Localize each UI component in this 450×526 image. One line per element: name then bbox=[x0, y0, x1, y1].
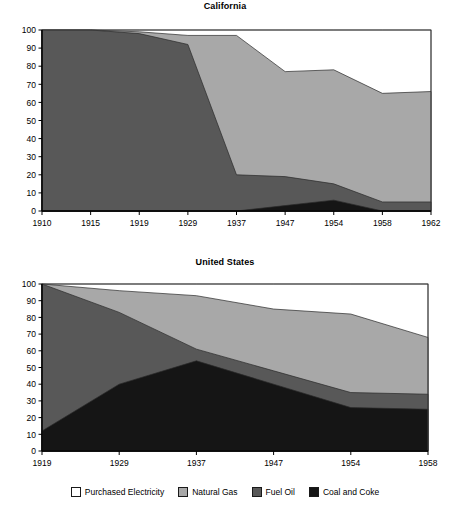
y-tick-label: 50 bbox=[27, 363, 37, 373]
y-tick-label: 10 bbox=[27, 188, 37, 198]
x-tick-label: 1919 bbox=[33, 458, 52, 468]
x-tick-label: 1937 bbox=[187, 458, 206, 468]
chart-california: California 01020304050607080901001910191… bbox=[0, 0, 450, 248]
y-tick-label: 40 bbox=[27, 134, 37, 144]
x-tick-label: 1947 bbox=[276, 218, 295, 228]
x-tick-label: 1958 bbox=[419, 458, 438, 468]
y-tick-label: 50 bbox=[27, 116, 37, 126]
x-tick-label: 1954 bbox=[324, 218, 343, 228]
y-tick-label: 90 bbox=[27, 43, 37, 53]
y-tick-label: 30 bbox=[27, 152, 37, 162]
y-tick-label: 20 bbox=[27, 170, 37, 180]
y-tick-label: 0 bbox=[31, 446, 36, 456]
y-tick-label: 30 bbox=[27, 396, 37, 406]
y-tick-label: 40 bbox=[27, 379, 37, 389]
y-tick-label: 80 bbox=[27, 313, 37, 323]
legend-item-purchased-electricity: Purchased Electricity bbox=[71, 487, 164, 497]
plot-area-california: 0102030405060708090100191019151919192919… bbox=[0, 12, 450, 244]
x-tick-label: 1915 bbox=[81, 218, 100, 228]
chart-title-california: California bbox=[0, 0, 450, 12]
y-tick-label: 60 bbox=[27, 346, 37, 356]
y-tick-label: 20 bbox=[27, 413, 37, 423]
legend-item-coal-and-coke: Coal and Coke bbox=[309, 487, 379, 497]
y-tick-label: 100 bbox=[22, 279, 36, 289]
x-tick-label: 1954 bbox=[341, 458, 360, 468]
y-tick-label: 10 bbox=[27, 430, 37, 440]
legend-item-fuel-oil: Fuel Oil bbox=[252, 487, 295, 497]
legend-label-coal-and-coke: Coal and Coke bbox=[323, 487, 379, 497]
plot-svg-california: 0102030405060708090100191019151919192919… bbox=[0, 12, 450, 244]
x-tick-label: 1937 bbox=[227, 218, 246, 228]
x-tick-label: 1958 bbox=[373, 218, 392, 228]
legend-swatch-natural-gas bbox=[178, 487, 188, 497]
x-tick-label: 1910 bbox=[33, 218, 52, 228]
y-tick-label: 90 bbox=[27, 296, 37, 306]
legend-label-natural-gas: Natural Gas bbox=[192, 487, 237, 497]
legend-swatch-purchased-electricity bbox=[71, 487, 81, 497]
y-tick-label: 60 bbox=[27, 98, 37, 108]
legend-item-natural-gas: Natural Gas bbox=[178, 487, 237, 497]
legend-swatch-fuel-oil bbox=[252, 487, 262, 497]
legend-label-fuel-oil: Fuel Oil bbox=[266, 487, 295, 497]
y-tick-label: 0 bbox=[31, 206, 36, 216]
plot-svg-united-states: 0102030405060708090100191919291937194719… bbox=[0, 268, 450, 484]
x-tick-label: 1919 bbox=[130, 218, 149, 228]
y-tick-label: 100 bbox=[22, 25, 36, 35]
legend-swatch-coal-and-coke bbox=[309, 487, 319, 497]
legend-label-purchased-electricity: Purchased Electricity bbox=[85, 487, 164, 497]
y-tick-label: 70 bbox=[27, 329, 37, 339]
chart-united-states: United States 01020304050607080901001919… bbox=[0, 256, 450, 486]
plot-area-united-states: 0102030405060708090100191919291937194719… bbox=[0, 268, 450, 484]
chart-legend: Purchased Electricity Natural Gas Fuel O… bbox=[0, 487, 450, 497]
chart-title-united-states: United States bbox=[0, 256, 450, 268]
x-tick-label: 1929 bbox=[178, 218, 197, 228]
x-tick-label: 1947 bbox=[264, 458, 283, 468]
x-tick-label: 1929 bbox=[110, 458, 129, 468]
y-tick-label: 70 bbox=[27, 80, 37, 90]
y-tick-label: 80 bbox=[27, 61, 37, 71]
x-tick-label: 1962 bbox=[422, 218, 441, 228]
